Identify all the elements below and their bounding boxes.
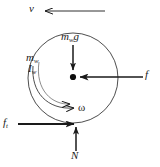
normal-force-label: N — [71, 150, 78, 161]
physics-diagram: v mwg mw Iw f ω ft N — [0, 0, 160, 167]
velocity-label: v — [29, 3, 34, 14]
diagram-canvas — [0, 0, 160, 167]
normal-force-symbol: N — [71, 149, 78, 161]
angular-velocity-symbol: ω — [78, 101, 85, 113]
angular-velocity-label: ω — [78, 102, 85, 113]
friction-symbol: f — [145, 68, 148, 80]
angular-velocity-arc-arrow — [33, 66, 74, 108]
traction-subscript: t — [6, 122, 8, 129]
weight-label: mwg — [61, 31, 79, 42]
traction-label: ft — [3, 117, 8, 128]
inertia-label: Iw — [28, 63, 36, 74]
weight-symbol: m — [61, 30, 69, 42]
center-of-mass-dot — [70, 74, 76, 80]
inertia-subscript: w — [32, 68, 37, 75]
friction-label: f — [145, 69, 148, 80]
weight-subscript: w — [69, 36, 74, 43]
velocity-symbol: v — [29, 2, 34, 14]
weight-trailing: g — [74, 30, 80, 42]
